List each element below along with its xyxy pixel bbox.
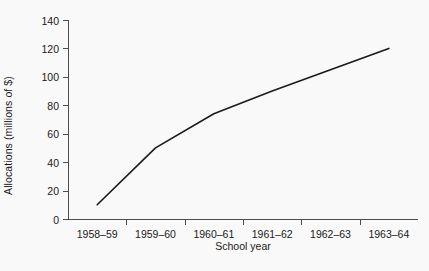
series-line [68,20,418,219]
x-tick-label: 1962–63 [310,228,351,240]
x-tick-label: 1963–64 [368,228,409,240]
y-tick-label: 0 [53,214,59,226]
plot-area: 020406080100120140 1958–591959–601960–61… [68,20,418,219]
allocations-line [97,48,389,204]
y-tick: 0 [63,219,68,220]
y-axis-title: Allocations (millions of $) [0,0,16,271]
x-axis-title: School year [68,240,418,252]
y-tick-label: 120 [41,43,59,55]
x-tick [126,219,127,225]
x-tick [243,219,244,225]
y-tick-label: 40 [47,157,59,169]
y-tick-label: 80 [47,100,59,112]
line-chart: Allocations (millions of $) 020406080100… [0,0,429,271]
y-tick-label: 100 [41,71,59,83]
y-tick-label: 60 [47,128,59,140]
x-tick [360,219,361,225]
x-tick [301,219,302,225]
x-tick-label: 1960–61 [193,228,234,240]
y-tick-label: 20 [47,185,59,197]
x-tick-label: 1961–62 [252,228,293,240]
x-tick [185,219,186,225]
x-tick-label: 1958–59 [77,228,118,240]
x-tick-label: 1959–60 [135,228,176,240]
y-tick-label: 140 [41,15,59,27]
